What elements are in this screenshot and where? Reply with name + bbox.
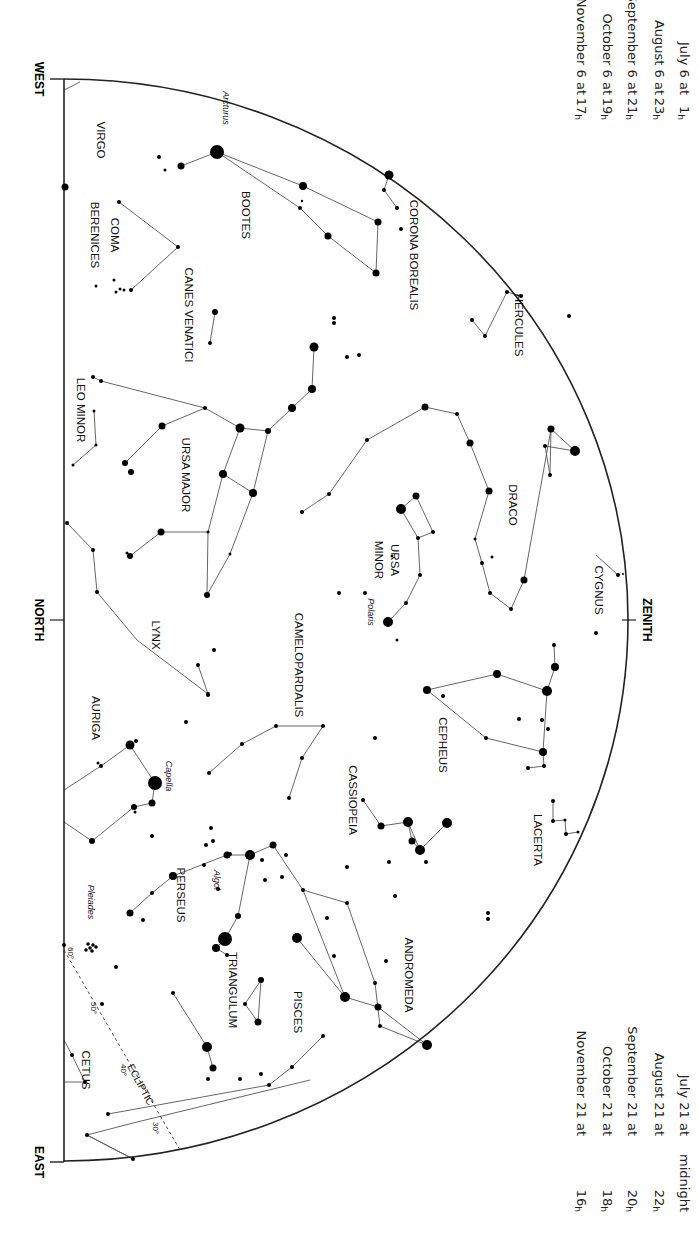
star [148, 776, 162, 790]
star [413, 493, 420, 500]
star [373, 270, 380, 277]
star [212, 309, 218, 315]
constellation-line [125, 408, 205, 463]
constellation-label: PISCES [292, 991, 304, 1034]
star [203, 406, 207, 410]
star [93, 410, 96, 413]
time-row: September 6 at21h [625, 0, 640, 120]
constellation-labels: VIRGOBOOTESCORONA BOREALISCOMABERENICESC… [75, 90, 605, 1090]
star [290, 1065, 294, 1069]
star [150, 891, 154, 895]
star [274, 724, 278, 728]
star [235, 913, 241, 919]
star [470, 318, 474, 322]
star [488, 591, 492, 595]
star [548, 473, 552, 477]
star [284, 853, 288, 857]
constellation-label: LYNX [150, 620, 162, 650]
star [340, 992, 350, 1002]
time-date: November 6 at [574, 0, 589, 95]
star [204, 592, 210, 598]
star [243, 1002, 247, 1006]
star [542, 686, 552, 696]
constellation-line [297, 938, 345, 997]
constellation-line [119, 202, 178, 290]
star [208, 341, 212, 345]
star [415, 845, 425, 855]
star [207, 771, 211, 775]
constellation-label: DRACO [507, 484, 519, 526]
star [361, 798, 365, 802]
stars [62, 145, 625, 1161]
star [157, 155, 161, 159]
star [97, 762, 100, 765]
star [72, 464, 75, 467]
ecliptic-label: ECLIPTIC [125, 1062, 156, 1107]
star [95, 590, 99, 594]
constellation-line [210, 312, 215, 343]
star [418, 573, 422, 577]
star [89, 838, 95, 844]
constellation-label: MINOR [373, 541, 385, 579]
time-row: October 6 at19h [600, 13, 615, 120]
star [298, 206, 302, 210]
star [218, 932, 232, 946]
constellation-label: HERCULES [513, 294, 525, 357]
time-hour: 21h [625, 98, 640, 120]
constellation-line [553, 801, 578, 834]
star [441, 694, 445, 698]
constellation-label: PERSEUS [175, 868, 187, 923]
constellation-label: BERENICES [89, 202, 101, 269]
star [300, 510, 304, 514]
star [287, 796, 291, 800]
star [345, 865, 349, 869]
star [373, 981, 377, 985]
constellation-line [209, 726, 323, 798]
constellation-line [173, 993, 213, 1068]
star [375, 219, 382, 226]
star [484, 736, 488, 740]
time-row: November 21 at16h [574, 1031, 589, 1213]
pleiades-star [86, 942, 90, 946]
star [206, 693, 210, 697]
star [375, 1004, 382, 1011]
star [149, 800, 156, 807]
star [236, 424, 245, 433]
star [505, 290, 509, 294]
star [292, 933, 302, 943]
time-row: July 21 atmidnight [677, 1074, 692, 1212]
pleiades-star [84, 948, 88, 952]
constellation-line [384, 175, 397, 208]
star [517, 717, 521, 721]
star-name-label: Pleiades [86, 885, 96, 920]
star [616, 573, 620, 577]
constellation-label: TRIANGULUM [227, 952, 239, 1028]
star [176, 245, 180, 249]
star [422, 1040, 432, 1050]
star-name-label: Capella [164, 761, 174, 792]
constellation-line [245, 980, 261, 1022]
star [267, 1083, 271, 1087]
star [219, 470, 227, 478]
zenith-label: ZENITH [640, 598, 654, 641]
pleiades-star [91, 943, 95, 947]
constellation-label: CEPHEUS [437, 717, 449, 773]
time-date: October 6 at [600, 13, 615, 95]
star [62, 943, 66, 947]
star [337, 591, 341, 595]
star [551, 663, 559, 671]
star-name-label: Polaris [366, 598, 376, 626]
star [393, 894, 397, 898]
star [122, 460, 128, 466]
constellation-line [92, 745, 155, 841]
star [363, 591, 367, 595]
time-tables: July 6 at1hAugust 6 at23hSeptember 6 at2… [574, 0, 692, 1212]
star [65, 521, 69, 525]
star [373, 736, 377, 740]
star [308, 385, 316, 393]
star [159, 423, 166, 430]
star [521, 577, 528, 584]
star [594, 631, 598, 635]
star [95, 444, 98, 447]
star [332, 954, 336, 958]
